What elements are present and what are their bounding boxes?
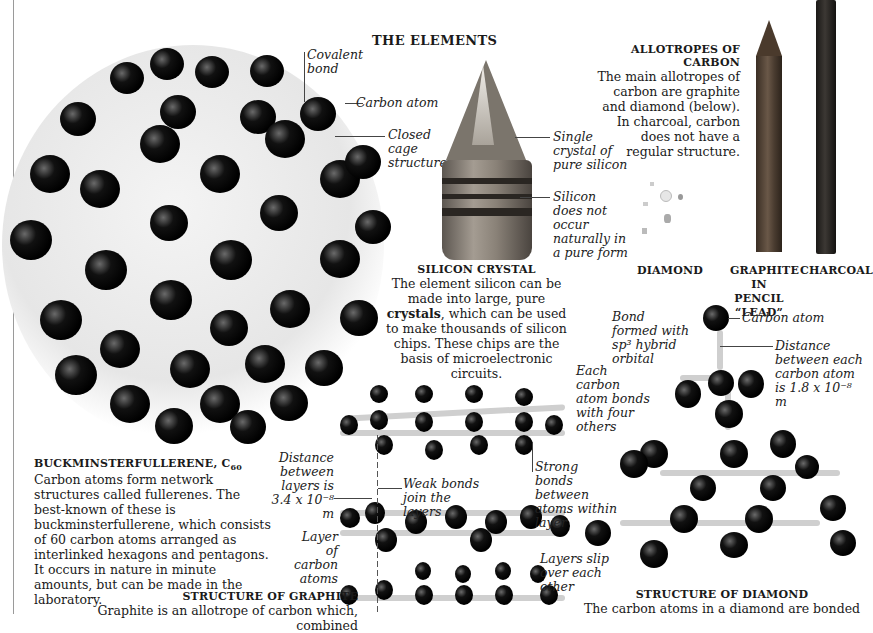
- leader-line: [720, 346, 773, 347]
- buckyball-heading-subscript: 60: [230, 462, 242, 472]
- label-sp3-bond: Bond formed with sp³ hybrid orbital: [612, 310, 694, 366]
- charcoal-stick-image: [816, 0, 836, 254]
- label-weak-bonds: Weak bonds join the layers: [403, 477, 483, 519]
- silicon-caption: SILICON CRYSTAL The element silicon can …: [384, 263, 569, 381]
- label-carbon-atom: Carbon atom: [356, 96, 438, 110]
- graphite-body: Graphite is an allotrope of carbon which…: [40, 603, 358, 633]
- diamond-caption: STRUCTURE OF DIAMOND The carbon atoms in…: [575, 588, 869, 616]
- allotropes-caption: ALLOTROPES OF CARBON The main allotropes…: [592, 43, 740, 159]
- graphite-pencil-image: [756, 20, 782, 252]
- allotropes-heading: ALLOTROPES OF CARBON: [592, 43, 740, 69]
- label-four-bonds: Each carbon atom bonds with four others: [576, 364, 651, 434]
- label-atom-distance: Distance between each carbon atom is 1.8…: [775, 339, 865, 409]
- layer-dashed-line: [377, 435, 378, 615]
- label-diamond: DIAMOND: [637, 264, 703, 277]
- leader-line: [304, 52, 305, 102]
- graphite-heading: STRUCTURE OF GRAPHITE: [40, 590, 358, 603]
- label-not-natural: Silicon does not occur naturally in a pu…: [553, 190, 628, 260]
- buckyball-caption: BUCKMINSTERFULLERENE, C60 Carbon atoms f…: [34, 457, 274, 607]
- silicon-crystal-image: [432, 60, 542, 260]
- leader-line: [515, 137, 550, 138]
- leader-line: [728, 318, 740, 319]
- allotropes-body: The main allotropes of carbon are graphi…: [592, 69, 740, 159]
- buckyball-heading: BUCKMINSTERFULLERENE, C60: [34, 457, 274, 472]
- leader-line: [520, 197, 550, 198]
- leader-line: [378, 488, 402, 489]
- leader-line: [532, 442, 533, 472]
- label-charcoal: CHARCOAL: [800, 264, 873, 277]
- silicon-body-bold: crystals: [387, 306, 441, 321]
- graphite-caption: STRUCTURE OF GRAPHITE Graphite is an all…: [40, 590, 358, 633]
- label-diamond-carbon-atom: Carbon atom: [742, 311, 824, 325]
- diamond-image: [638, 180, 698, 240]
- silicon-heading: SILICON CRYSTAL: [384, 263, 569, 276]
- silicon-body-text: The element silicon can be made into lar…: [392, 276, 562, 306]
- diamond-heading: STRUCTURE OF DIAMOND: [575, 588, 869, 601]
- leader-line: [335, 136, 385, 137]
- leader-line: [334, 498, 372, 499]
- page-title: THE ELEMENTS: [372, 33, 497, 48]
- diamond-body: The carbon atoms in a diamond are bonded: [575, 601, 869, 616]
- label-layer-of-atoms: Layer of carbon atoms: [290, 530, 338, 586]
- label-covalent-bond: Covalent bond: [307, 48, 377, 76]
- silicon-body: The element silicon can be made into lar…: [384, 276, 569, 381]
- label-layer-distance: Distance between layers is 3.4 x 10⁻⁸ m: [262, 451, 334, 521]
- buckyball-body: Carbon atoms form network structures cal…: [34, 472, 274, 607]
- buckyball-heading-text: BUCKMINSTERFULLERENE, C: [34, 457, 230, 470]
